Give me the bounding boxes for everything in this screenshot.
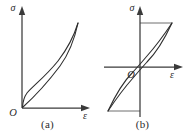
panel-b: σ ε O (b) bbox=[95, 0, 190, 137]
panel-b-caption: (b) bbox=[95, 118, 190, 131]
panel-a-caption: (a) bbox=[0, 118, 95, 131]
panel-a-origin-label: O bbox=[9, 107, 17, 118]
panel-b-plot: σ ε O bbox=[95, 0, 190, 137]
figure-container: σ ε O (a) σ ε O (b) bbox=[0, 0, 190, 137]
panel-a-y-axis-arrow bbox=[19, 6, 25, 15]
panel-b-y-axis-label: σ bbox=[130, 2, 136, 13]
panel-b-x-axis-label: ε bbox=[170, 69, 174, 80]
panel-a: σ ε O (a) bbox=[0, 0, 95, 137]
panel-a-y-axis-label: σ bbox=[11, 2, 17, 13]
panel-b-origin-label: O bbox=[127, 69, 135, 80]
panel-a-plot: σ ε O bbox=[0, 0, 95, 137]
panel-b-y-axis-arrow bbox=[137, 6, 143, 15]
panel-b-x-axis-arrow bbox=[174, 64, 183, 70]
panel-a-unloading-curve bbox=[23, 23, 79, 108]
panel-a-loading-curve bbox=[23, 23, 79, 108]
